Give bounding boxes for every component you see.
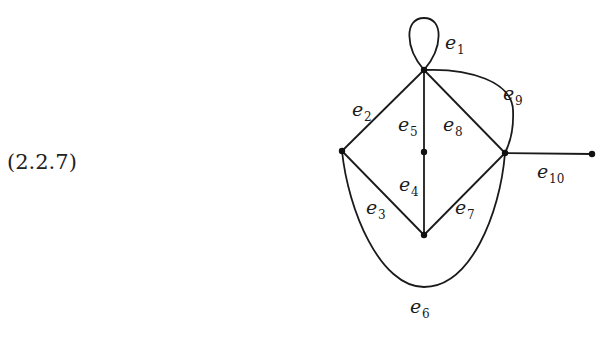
label-e3: e 3 bbox=[366, 196, 386, 222]
label-e5: e 5 bbox=[398, 113, 418, 139]
svg-text:9: 9 bbox=[515, 94, 523, 108]
svg-text:e: e bbox=[443, 113, 454, 135]
label-e4: e 4 bbox=[399, 173, 419, 199]
edge-e7 bbox=[424, 153, 505, 235]
svg-text:e: e bbox=[503, 82, 514, 104]
graph-diagram: e 1 e 2 e 5 e 8 e 9 e 4 e 3 e 7 e 10 e 6 bbox=[0, 0, 601, 349]
svg-text:6: 6 bbox=[422, 307, 430, 321]
label-e7: e 7 bbox=[455, 196, 475, 222]
svg-text:4: 4 bbox=[411, 185, 419, 199]
svg-text:10: 10 bbox=[549, 172, 564, 186]
label-e8: e 8 bbox=[443, 113, 463, 139]
vertex-right bbox=[502, 150, 508, 156]
label-e1: e 1 bbox=[445, 31, 465, 57]
svg-text:1: 1 bbox=[457, 43, 465, 57]
svg-text:8: 8 bbox=[455, 125, 463, 139]
svg-text:e: e bbox=[399, 173, 410, 195]
svg-text:e: e bbox=[537, 160, 548, 182]
vertex-middle bbox=[421, 149, 427, 155]
svg-text:3: 3 bbox=[378, 208, 386, 222]
label-e10: e 10 bbox=[537, 160, 564, 186]
edge-e10 bbox=[505, 153, 592, 154]
label-e2: e 2 bbox=[352, 98, 372, 124]
svg-text:e: e bbox=[366, 196, 377, 218]
vertex-bottom bbox=[421, 232, 427, 238]
vertex-far-right bbox=[589, 151, 595, 157]
svg-text:e: e bbox=[445, 31, 456, 53]
svg-text:e: e bbox=[352, 98, 363, 120]
svg-text:e: e bbox=[455, 196, 466, 218]
label-e6: e 6 bbox=[410, 295, 430, 321]
edge-e1-loop bbox=[409, 18, 438, 70]
vertex-top bbox=[421, 67, 427, 73]
svg-text:2: 2 bbox=[364, 110, 372, 124]
svg-text:e: e bbox=[410, 295, 421, 317]
svg-text:5: 5 bbox=[410, 125, 418, 139]
vertex-left bbox=[339, 148, 345, 154]
svg-text:e: e bbox=[398, 113, 409, 135]
edge-e9-curve bbox=[424, 70, 513, 153]
svg-text:7: 7 bbox=[467, 208, 475, 222]
